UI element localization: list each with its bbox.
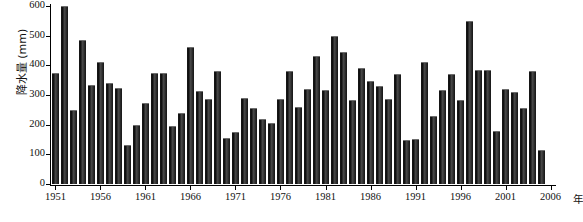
x-tick-mark bbox=[100, 186, 101, 190]
bar bbox=[169, 126, 176, 184]
bar bbox=[349, 100, 356, 184]
y-tick-label: 0 bbox=[5, 178, 45, 188]
bar bbox=[313, 56, 320, 184]
bar bbox=[88, 85, 95, 184]
bar bbox=[295, 107, 302, 184]
bar bbox=[79, 40, 86, 184]
y-tick-mark bbox=[46, 184, 50, 185]
y-tick-label: 600 bbox=[5, 0, 45, 10]
y-tick-label: 100 bbox=[5, 148, 45, 158]
x-tick-mark bbox=[190, 186, 191, 190]
bar bbox=[475, 70, 482, 184]
bar bbox=[502, 89, 509, 184]
bar bbox=[457, 100, 464, 184]
bar bbox=[97, 62, 104, 184]
x-tick-mark bbox=[235, 186, 236, 190]
bar bbox=[538, 150, 545, 184]
x-tick-label: 1956 bbox=[80, 191, 120, 202]
bar bbox=[196, 91, 203, 184]
x-tick-mark bbox=[416, 186, 417, 190]
bar bbox=[511, 92, 518, 184]
bar bbox=[340, 52, 347, 184]
bar bbox=[115, 88, 122, 184]
x-tick-mark bbox=[371, 186, 372, 190]
bar bbox=[70, 110, 77, 184]
bar bbox=[394, 74, 401, 184]
bar bbox=[259, 119, 266, 184]
bar bbox=[403, 140, 410, 184]
x-tick-mark bbox=[145, 186, 146, 190]
bar bbox=[106, 83, 113, 184]
bar bbox=[385, 99, 392, 184]
bar bbox=[322, 90, 329, 184]
bar bbox=[52, 73, 59, 184]
bar bbox=[412, 139, 419, 184]
x-tick-label: 1996 bbox=[441, 191, 481, 202]
x-tick-mark bbox=[461, 186, 462, 190]
x-axis-unit-label: 年 bbox=[573, 191, 583, 206]
bar bbox=[520, 108, 527, 184]
bar bbox=[421, 62, 428, 184]
bar bbox=[529, 71, 536, 184]
bar bbox=[232, 132, 239, 184]
bar bbox=[205, 99, 212, 184]
plot-area bbox=[50, 6, 555, 184]
bar bbox=[493, 131, 500, 184]
x-tick-mark bbox=[506, 186, 507, 190]
x-axis-labels: 1951195619611966197119761981198619911996… bbox=[0, 191, 561, 207]
x-tick-mark bbox=[55, 186, 56, 190]
y-tick-label: 300 bbox=[5, 89, 45, 99]
bar bbox=[376, 86, 383, 184]
x-tick-label: 1971 bbox=[215, 191, 255, 202]
bar bbox=[178, 113, 185, 184]
y-tick-label: 200 bbox=[5, 119, 45, 129]
x-tick-label: 1961 bbox=[125, 191, 165, 202]
bar-series bbox=[50, 6, 555, 184]
bar bbox=[367, 81, 374, 184]
bar bbox=[286, 71, 293, 184]
bar bbox=[151, 73, 158, 184]
y-tick-label: 500 bbox=[5, 30, 45, 40]
bar bbox=[268, 123, 275, 184]
bar bbox=[223, 138, 230, 184]
bar bbox=[214, 71, 221, 184]
x-tick-mark bbox=[280, 186, 281, 190]
bar bbox=[439, 90, 446, 184]
bar bbox=[250, 108, 257, 184]
bar bbox=[358, 68, 365, 184]
x-tick-mark bbox=[326, 186, 327, 190]
x-tick-label: 1966 bbox=[170, 191, 210, 202]
x-tick-label: 1991 bbox=[396, 191, 436, 202]
bar bbox=[331, 36, 338, 184]
bar bbox=[124, 145, 131, 184]
bar bbox=[277, 99, 284, 184]
y-tick-label: 400 bbox=[5, 59, 45, 69]
bar bbox=[142, 103, 149, 184]
x-tick-label: 1951 bbox=[35, 191, 75, 202]
bar bbox=[61, 6, 68, 184]
x-tick-label: 2006 bbox=[531, 191, 571, 202]
bar bbox=[187, 47, 194, 184]
bar bbox=[466, 21, 473, 184]
x-tick-label: 2001 bbox=[486, 191, 526, 202]
bar bbox=[133, 125, 140, 184]
bar bbox=[241, 98, 248, 184]
x-tick-label: 1986 bbox=[351, 191, 391, 202]
bar bbox=[448, 74, 455, 184]
bar bbox=[160, 73, 167, 184]
bar bbox=[484, 70, 491, 184]
bar bbox=[304, 89, 311, 184]
x-tick-label: 1981 bbox=[306, 191, 346, 202]
bar bbox=[430, 116, 437, 184]
x-tick-label: 1976 bbox=[260, 191, 300, 202]
x-tick-mark bbox=[551, 186, 552, 190]
